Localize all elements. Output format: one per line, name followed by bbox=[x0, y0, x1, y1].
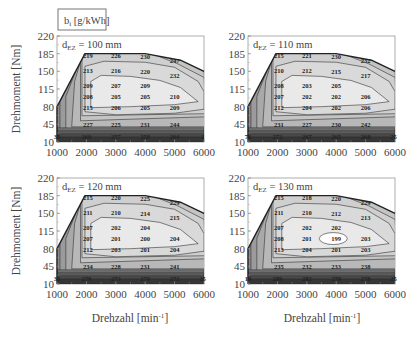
contour-label: 205 bbox=[140, 104, 151, 111]
contour-label: 210 bbox=[274, 67, 284, 74]
x-tick-label: 2000 bbox=[75, 288, 98, 300]
x-tick-label: 2000 bbox=[266, 146, 289, 158]
contour-label: 227 bbox=[83, 121, 94, 128]
contour-label: 204 bbox=[302, 104, 313, 111]
contour-label: 205 bbox=[111, 93, 122, 100]
x-tick-label: 6000 bbox=[384, 288, 407, 300]
y-tick-label: 150 bbox=[229, 207, 246, 219]
x-axis-label: Drehzahl [min-1] bbox=[92, 312, 168, 324]
contour-label: 212 bbox=[274, 104, 284, 111]
y-tick-label: 150 bbox=[229, 65, 246, 77]
contour-label: 209 bbox=[170, 104, 181, 111]
contour-label: 265 bbox=[331, 133, 342, 140]
x-tick-label: 3000 bbox=[105, 288, 128, 300]
legend-box: bi [g/kWh] bbox=[58, 9, 109, 30]
contour-label: 209 bbox=[140, 82, 151, 89]
contour-label: 220 bbox=[140, 68, 150, 75]
y-tick-label: 45 bbox=[43, 118, 55, 130]
contour-label: 202 bbox=[331, 104, 341, 111]
contour-label: 201 bbox=[331, 246, 341, 253]
contour-label: 242 bbox=[361, 121, 371, 128]
contour-label: 220 bbox=[331, 195, 341, 202]
contour-label: 201 bbox=[140, 246, 150, 253]
contour-label: 199 bbox=[331, 235, 342, 242]
y-tick-label: 45 bbox=[234, 260, 246, 272]
y-tick-label: 185 bbox=[229, 48, 246, 60]
y-tick-label: 185 bbox=[38, 190, 55, 202]
x-tick-label: 4000 bbox=[134, 288, 157, 300]
contour-label: 215 bbox=[83, 104, 94, 111]
contour-label: 208 bbox=[274, 235, 285, 242]
x-tick-label: 5000 bbox=[164, 146, 187, 158]
contour-label: 232 bbox=[170, 72, 180, 79]
x-tick-label: 4000 bbox=[325, 146, 348, 158]
contour-label: 279 bbox=[82, 275, 93, 282]
contour-label: 289 bbox=[273, 275, 284, 282]
contour-label: 231 bbox=[140, 121, 150, 128]
contour-label: 228 bbox=[111, 263, 122, 270]
contour-label: 214 bbox=[140, 210, 151, 217]
contour-label: 230 bbox=[140, 53, 150, 60]
x-tick-label: 3000 bbox=[105, 146, 128, 158]
y-tick-label: 80 bbox=[43, 243, 55, 255]
contour-label: 215 bbox=[274, 194, 285, 201]
y-tick-label: 220 bbox=[38, 172, 55, 184]
contour-label: 2 bbox=[201, 133, 204, 140]
contour-label: 226 bbox=[111, 52, 122, 59]
contour-label: 205 bbox=[331, 82, 342, 89]
x-tick-label: 5000 bbox=[164, 288, 187, 300]
contour-label: 14 bbox=[245, 275, 252, 282]
y-tick-label: 185 bbox=[38, 48, 55, 60]
contour-label: 258 bbox=[140, 133, 151, 140]
contour-label: 213 bbox=[274, 246, 285, 253]
y-tick-label: 80 bbox=[234, 243, 246, 255]
contour-label: 212 bbox=[302, 67, 312, 74]
x-tick-label: 6000 bbox=[384, 146, 407, 158]
contour-label: 278 bbox=[361, 275, 372, 282]
contour-label: 232 bbox=[302, 263, 312, 270]
x-axis-label: Drehzahl [min-1] bbox=[284, 312, 360, 324]
contour-label: 227 bbox=[302, 121, 313, 128]
y-tick-label: 80 bbox=[43, 101, 55, 113]
contour-label: 211 bbox=[83, 209, 92, 216]
y-tick-label: 185 bbox=[229, 190, 246, 202]
y-axis-label: Drehmoment [Nm] bbox=[10, 187, 22, 275]
contour-label: 207 bbox=[274, 93, 285, 100]
contour-label: 210 bbox=[302, 209, 312, 216]
contour-label: 207 bbox=[83, 235, 94, 242]
contour-label: 210 bbox=[170, 93, 180, 100]
contour-label: 204 bbox=[170, 246, 181, 253]
contour-label: 219 bbox=[83, 52, 94, 59]
x-tick-label: 1000 bbox=[46, 288, 69, 300]
contour-label: 204 bbox=[170, 235, 181, 242]
y-tick-label: 220 bbox=[229, 172, 246, 184]
contour-label: 215 bbox=[83, 194, 94, 201]
contour-label: 203 bbox=[361, 246, 372, 253]
contour-label: 238 bbox=[361, 263, 372, 270]
contour-label: 225 bbox=[111, 121, 122, 128]
x-tick-label: 2000 bbox=[75, 146, 98, 158]
contour-label: 200 bbox=[140, 235, 150, 242]
contour-label: 218 bbox=[302, 194, 313, 201]
y-tick-label: 80 bbox=[234, 101, 246, 113]
x-tick-label: 1000 bbox=[237, 146, 260, 158]
contour-label: 231 bbox=[274, 121, 284, 128]
x-tick-label: 5000 bbox=[355, 288, 378, 300]
contour-label: 202 bbox=[331, 93, 341, 100]
contour-label: 273 bbox=[111, 275, 122, 282]
contour-label: 203 bbox=[302, 82, 313, 89]
contour-label: 212 bbox=[331, 210, 341, 217]
y-tick-label: 45 bbox=[43, 260, 55, 272]
y-axis-label: Drehmoment [Nm] bbox=[10, 45, 22, 133]
contour-label: 207 bbox=[111, 82, 122, 89]
contour-label: 203 bbox=[111, 246, 122, 253]
contour-label: 234 bbox=[83, 263, 94, 270]
contour-label: 204 bbox=[140, 224, 151, 231]
contour-label: 217 bbox=[361, 72, 372, 79]
x-tick-label: 6000 bbox=[193, 288, 216, 300]
y-tick-label: 115 bbox=[38, 83, 55, 95]
x-tick-label: 3000 bbox=[296, 288, 319, 300]
x-tick-label: 1000 bbox=[46, 146, 69, 158]
panel-p120: 2152202252292112102142152072022042072012… bbox=[38, 172, 216, 300]
contour-label: 76 bbox=[245, 133, 252, 140]
